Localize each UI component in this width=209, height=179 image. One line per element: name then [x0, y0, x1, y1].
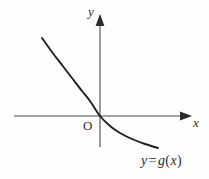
graph-figure: y x O y=g(x): [0, 0, 209, 179]
x-axis-arrow-icon: [180, 111, 192, 120]
y-axis-label: y: [88, 5, 94, 18]
function-label-equals: =: [148, 153, 158, 168]
origin-label: O: [83, 119, 92, 132]
y-axis-arrow-icon: [96, 14, 105, 26]
x-axis-label: x: [193, 116, 199, 129]
function-label-lhs: y: [141, 153, 148, 168]
function-label: y=g(x): [141, 154, 182, 168]
function-label-close-paren: ): [177, 153, 182, 168]
